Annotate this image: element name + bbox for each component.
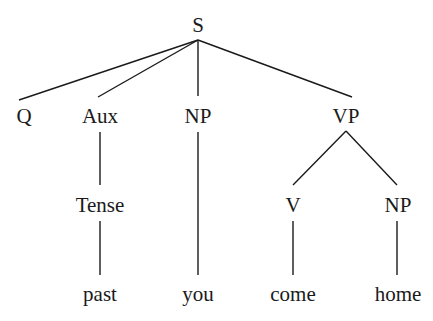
node-np-object: NP — [385, 193, 412, 217]
node-vp: VP — [333, 104, 360, 128]
node-s: S — [192, 13, 204, 37]
node-v: V — [285, 193, 300, 217]
node-np-subject: NP — [185, 104, 212, 128]
leaf-you: you — [182, 282, 214, 306]
edge-vp-v — [293, 131, 346, 185]
node-tense: Tense — [76, 193, 125, 217]
node-q: Q — [16, 104, 31, 128]
edge-s-vp — [198, 40, 352, 97]
leaf-home: home — [375, 282, 422, 306]
node-aux: Aux — [82, 104, 119, 128]
syntax-tree: S Q Aux NP VP Tense V NP past you come h… — [0, 0, 433, 321]
edge-vp-np — [346, 131, 397, 185]
leaf-come: come — [270, 282, 315, 306]
leaf-past: past — [83, 282, 117, 306]
